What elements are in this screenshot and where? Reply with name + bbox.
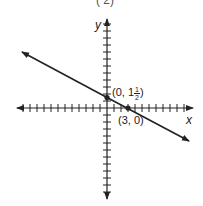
point-x-intercept (125, 105, 130, 110)
coordinate-plane (0, 0, 203, 206)
graph-line (22, 52, 107, 98)
point-label-x-intercept: (3, 0) (118, 115, 144, 126)
point-y-intercept (104, 95, 109, 100)
x-axis-label: x (186, 114, 192, 126)
y-axis-label: y (95, 19, 101, 31)
point-label-y-intercept: (0, 112) (112, 86, 144, 101)
